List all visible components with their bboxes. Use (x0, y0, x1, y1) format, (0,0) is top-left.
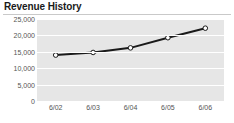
y-axis-tick-label: 10,000 (1, 65, 35, 72)
x-axis: 6/026/036/046/056/06 (37, 104, 224, 116)
revenue-line-series (37, 19, 224, 101)
y-axis-tick-label: 20,000 (1, 32, 35, 39)
data-point-marker (128, 46, 133, 51)
y-axis: 25,00020,00015,00010,0005,0000 (0, 19, 35, 101)
gridline (37, 85, 224, 86)
x-axis-tick-label: 6/02 (49, 104, 63, 112)
y-axis-tick-label: 0 (1, 98, 35, 105)
gridline (37, 19, 224, 20)
x-axis-tick-label: 6/06 (198, 104, 212, 112)
y-axis-tick-label: 15,000 (1, 49, 35, 56)
y-axis-tick-label: 25,000 (1, 16, 35, 23)
gridline (37, 68, 224, 69)
x-axis-tick-label: 6/03 (86, 104, 100, 112)
x-axis-tick-label: 6/04 (124, 104, 138, 112)
data-point-marker (53, 53, 58, 58)
title-divider (3, 14, 231, 15)
x-axis-tick-label: 6/05 (161, 104, 175, 112)
data-point-marker (166, 35, 171, 40)
page-title: Revenue History (4, 1, 81, 13)
gridline (37, 52, 224, 53)
revenue-history-widget: Revenue History 25,00020,00015,00010,000… (0, 0, 234, 123)
data-point-marker (203, 26, 208, 31)
y-axis-tick-label: 5,000 (1, 82, 35, 89)
gridline (37, 35, 224, 36)
chart-plot-area (37, 19, 224, 101)
